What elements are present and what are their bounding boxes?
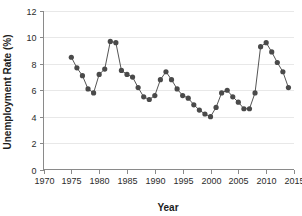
y-tick-label-0: 0 [31, 166, 36, 176]
data-point: 2002: 5.8% [219, 90, 224, 95]
data-point: 2011: 8.9% [269, 49, 274, 54]
data-point: 2010: 9.6% [264, 40, 269, 45]
data-point: 2012: 8.1% [275, 60, 280, 65]
y-tick-label-8: 8 [31, 60, 36, 70]
x-tick-label-1985: 1985 [117, 176, 137, 186]
x-axis-title: Year [157, 202, 178, 213]
data-point: 1986: 7% [130, 74, 135, 79]
data-point: 2004: 5.5% [230, 94, 235, 99]
data-point: 1991: 6.8% [158, 77, 163, 82]
data-point: 1988: 5.5% [141, 94, 146, 99]
data-point: 1983: 9.6% [113, 40, 118, 45]
data-point: 1982: 9.7% [108, 39, 113, 44]
data-point: 2008: 5.8% [252, 90, 257, 95]
data-point: 1995: 5.6% [180, 93, 185, 98]
data-point: 1990: 5.6% [152, 93, 157, 98]
x-tick-label-1995: 1995 [173, 176, 193, 186]
data-point: 1976: 7.7% [74, 65, 79, 70]
data-point: 1996: 5.4% [186, 96, 191, 101]
data-point: 1994: 6.1% [175, 86, 180, 91]
data-point: 2006: 4.6% [241, 106, 246, 111]
data-point: 1992: 7.4% [163, 69, 168, 74]
x-tick-label-1990: 1990 [145, 176, 165, 186]
data-point: 1980: 7.2% [97, 72, 102, 77]
data-point: 1977: 7.1% [80, 73, 85, 78]
x-tick-label-2015: 2015 [284, 176, 302, 186]
y-tick-label-6: 6 [31, 86, 36, 96]
data-point: 2014: 6.2% [286, 85, 291, 90]
data-point: 2007: 4.6% [247, 106, 252, 111]
x-tick-label-1970: 1970 [34, 176, 54, 186]
y-axis-title: Unemployment Rate (%) [2, 34, 13, 149]
y-tick-label-2: 2 [31, 139, 36, 149]
data-point: 1987: 6.2% [136, 85, 141, 90]
y-tick-label-10: 10 [26, 33, 36, 43]
data-point: 2005: 5.1% [236, 100, 241, 105]
data-point: 1997: 4.9% [191, 102, 196, 107]
x-tick-label-2000: 2000 [201, 176, 221, 186]
x-tick-label-2005: 2005 [228, 176, 248, 186]
data-point: 1993: 6.8% [169, 77, 174, 82]
data-point: 1999: 4.2% [202, 111, 207, 116]
chart-container: 024681012 197019751980198519901995200020… [0, 0, 302, 216]
data-point: 2001: 4.7% [213, 105, 218, 110]
y-tick-label-4: 4 [31, 113, 36, 123]
data-point: 2013: 7.4% [280, 69, 285, 74]
unemployment-rate-line-chart: 024681012 197019751980198519901995200020… [0, 0, 302, 216]
x-tick-label-1975: 1975 [61, 176, 81, 186]
data-point: 2000: 4% [208, 114, 213, 119]
data-point: 2009: 9.3% [258, 44, 263, 49]
data-point: 1984: 7.5% [119, 68, 124, 73]
data-point: 1978: 6.1% [85, 86, 90, 91]
x-tick-label-1980: 1980 [89, 176, 109, 186]
data-point: 1985: 7.2% [124, 72, 129, 77]
x-tick-label-2010: 2010 [256, 176, 276, 186]
data-point: 2003: 6% [225, 88, 230, 93]
data-point: 1998: 4.5% [197, 107, 202, 112]
data-point: 1989: 5.3% [147, 97, 152, 102]
y-tick-label-12: 12 [26, 7, 36, 17]
data-point: 1979: 5.8% [91, 90, 96, 95]
data-point: 1981: 7.6% [102, 67, 107, 72]
data-point: 1975: 8.5% [69, 55, 74, 60]
